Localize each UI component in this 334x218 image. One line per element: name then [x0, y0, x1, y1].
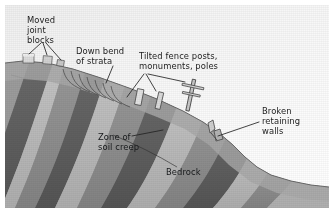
illustration-plate: Moved joint blocks Down bend of strata T… — [5, 5, 329, 208]
label-broken-retaining-walls: Broken retaining walls — [262, 106, 300, 137]
leader-broken-walls — [218, 122, 259, 136]
label-zone-of-soil-creep: Zone of soil creep — [98, 132, 139, 152]
joint-block-2 — [43, 56, 53, 65]
tilted-utility-pole — [177, 77, 205, 113]
figure-root: Moved joint blocks Down bend of strata T… — [0, 0, 334, 218]
joint-block-3 — [57, 60, 65, 67]
joint-block-1 — [23, 54, 34, 63]
leader-tilted-2 — [146, 74, 156, 91]
label-tilted-fence-posts: Tilted fence posts, monuments, poles — [139, 51, 218, 71]
label-bedrock: Bedrock — [166, 167, 201, 177]
label-down-bend-of-strata: Down bend of strata — [76, 46, 124, 66]
leader-down-bend — [106, 66, 113, 83]
label-moved-joint-blocks: Moved joint blocks — [27, 15, 55, 46]
leader-tilted-3 — [148, 74, 185, 82]
